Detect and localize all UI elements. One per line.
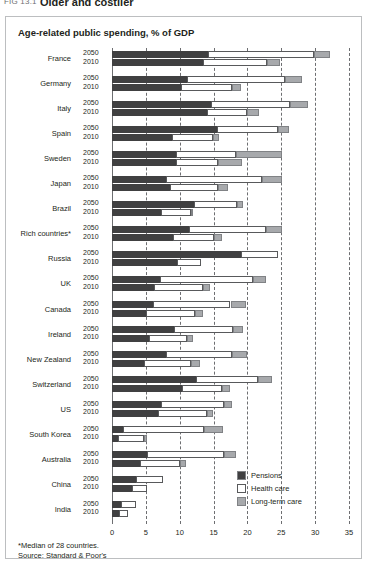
year-label: 2050: [83, 400, 99, 407]
bar-segment-health: [140, 460, 180, 467]
bar-segment-health: [118, 435, 144, 442]
bar-row: [112, 151, 349, 158]
bar-row: [112, 159, 349, 166]
bar-segment-longterm: [258, 376, 272, 383]
year-label: 2010: [83, 358, 99, 365]
year-label: 2050: [83, 325, 99, 332]
bar-segment-longterm: [232, 84, 241, 91]
bar-segment-health: [166, 176, 261, 183]
source-note: Source: Standard & Poor's: [18, 551, 107, 561]
bar-segment-health: [173, 234, 214, 241]
year-label: 2010: [83, 283, 99, 290]
bar-row: [112, 234, 349, 241]
legend-label: Pensions: [251, 471, 282, 480]
bar-row: [112, 276, 349, 283]
x-tick-20: 20: [237, 528, 257, 537]
bar-segment-longterm: [180, 460, 186, 467]
category-label: New Zealand: [27, 355, 71, 364]
bar-segment-health: [241, 251, 278, 258]
bar-row: [112, 510, 349, 517]
year-label: 2050: [83, 249, 99, 256]
legend-swatch: [237, 497, 246, 506]
bar-segment-longterm: [237, 201, 243, 208]
year-label: 2050: [83, 49, 99, 56]
bar-segment-pensions: [112, 310, 146, 317]
bar-segment-longterm: [214, 234, 221, 241]
year-label: 2010: [83, 483, 99, 490]
bar-segment-health: [161, 401, 224, 408]
bar-segment-longterm: [266, 226, 282, 233]
bar-segment-longterm: [222, 385, 230, 392]
year-label: 2050: [83, 74, 99, 81]
bar-row: [112, 259, 349, 266]
bar-row: [112, 360, 349, 367]
figure-caption: Older and costlier: [40, 0, 134, 8]
bar-row: [112, 176, 349, 183]
bar-segment-longterm: [187, 335, 192, 342]
bar-segment-longterm: [213, 134, 219, 141]
year-label: 2010: [83, 308, 99, 315]
year-label: 2010: [83, 158, 99, 165]
bar-row: [112, 134, 349, 141]
plot-area: 2050201020502010205020102050201020502010…: [112, 48, 349, 524]
bar-segment-longterm: [285, 76, 302, 83]
category-label: Rich countries*: [21, 229, 71, 238]
bar-segment-health: [166, 351, 232, 358]
bar-row: [112, 326, 349, 333]
bar-segment-health: [176, 151, 236, 158]
bar-segment-health: [160, 276, 253, 283]
figure-header: FIG 13.1 Older and costlier: [0, 0, 369, 14]
bar-segment-pensions: [112, 259, 177, 266]
bar-segment-pensions: [112, 159, 176, 166]
year-label: 2010: [83, 433, 99, 440]
bar-segment-longterm: [195, 310, 203, 317]
bar-segment-health: [170, 184, 217, 191]
category-label: Spain: [52, 129, 71, 138]
legend-item: Pensions: [237, 469, 302, 482]
bar-row: [112, 310, 349, 317]
year-label: 2050: [83, 224, 99, 231]
year-label: 2010: [83, 183, 99, 190]
year-label: 2050: [83, 99, 99, 106]
bar-segment-pensions: [112, 501, 121, 508]
bar-segment-pensions: [112, 284, 154, 291]
bar-segment-pensions: [112, 134, 172, 141]
legend-item: Long-term care: [237, 495, 302, 508]
bar-segment-longterm: [236, 151, 282, 158]
bar-segment-longterm: [253, 276, 266, 283]
bar-segment-pensions: [112, 476, 136, 483]
bar-segment-health: [153, 301, 230, 308]
bar-row: [112, 301, 349, 308]
bar-row: [112, 376, 349, 383]
bar-segment-health: [196, 376, 258, 383]
category-label: Brazil: [52, 204, 71, 213]
year-label: 2010: [83, 58, 99, 65]
bar-segment-health: [174, 326, 232, 333]
bar-row: [112, 284, 349, 291]
year-label: 2050: [83, 450, 99, 457]
year-label: 2050: [83, 300, 99, 307]
x-tick-35: 35: [339, 528, 359, 537]
bar-row: [112, 335, 349, 342]
category-label: Russia: [48, 254, 71, 263]
bar-segment-pensions: [112, 410, 158, 417]
bar-row: [112, 485, 349, 492]
chart-notes: *Median of 28 countries. Source: Standar…: [18, 541, 107, 560]
year-label: 2010: [83, 133, 99, 140]
bar-segment-pensions: [112, 84, 181, 91]
bar-segment-pensions: [112, 326, 174, 333]
bar-segment-pensions: [112, 59, 203, 66]
bar-segment-health: [189, 226, 266, 233]
bar-segment-health: [182, 385, 221, 392]
bar-segment-health: [144, 360, 191, 367]
bar-segment-pensions: [112, 76, 187, 83]
category-label: Germany: [40, 79, 71, 88]
bar-segment-pensions: [112, 209, 161, 216]
category-label: Canada: [45, 305, 71, 314]
bar-segment-health: [136, 476, 163, 483]
bar-segment-health: [194, 201, 237, 208]
bar-segment-pensions: [112, 184, 170, 191]
bar-segment-longterm: [231, 301, 247, 308]
year-label: 2010: [83, 383, 99, 390]
year-label: 2050: [83, 199, 99, 206]
